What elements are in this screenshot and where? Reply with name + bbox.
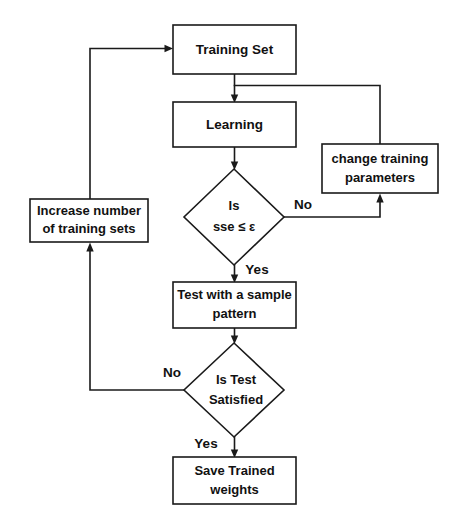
edge-sse-yes: [231, 265, 238, 283]
save-trained-weights-label-line1: Save Trained: [194, 463, 274, 478]
node-test-sample-pattern[interactable]: Test with a sample pattern: [173, 282, 296, 328]
node-test-satisfied-decision[interactable]: Is Test Satisfied: [184, 343, 284, 437]
edge-label-test-no: No: [163, 365, 181, 380]
increase-training-sets-label-line1: Increase number: [37, 203, 141, 218]
edge-label-sse-no: No: [294, 197, 312, 212]
increase-training-sets-label-line2: of training sets: [42, 221, 135, 236]
node-sse-decision[interactable]: Is sse ≤ ε: [184, 169, 284, 265]
test-sample-pattern-label-line2: pattern: [212, 306, 256, 321]
sse-decision-label-line1: Is: [229, 198, 240, 213]
change-training-parameters-label-line1: change training: [332, 151, 429, 166]
flowchart-canvas: Training Set Learning change training pa…: [0, 0, 464, 516]
edge-label-test-yes: Yes: [194, 436, 217, 451]
flowchart-svg: Training Set Learning change training pa…: [0, 0, 464, 516]
test-sample-pattern-label-line1: Test with a sample: [177, 287, 292, 302]
edge-training-to-learning: [231, 74, 238, 103]
sse-decision-label-line2: sse ≤ ε: [213, 219, 255, 234]
arrowhead-training-left: [165, 45, 174, 52]
learning-label: Learning: [206, 117, 263, 132]
test-satisfied-diamond[interactable]: [184, 343, 284, 437]
save-trained-weights-label-line2: weights: [209, 482, 258, 497]
arrowhead-increase-bottom: [86, 243, 93, 252]
edge-increase-to-training: [90, 45, 173, 199]
test-satisfied-label-line2: Satisfied: [209, 392, 263, 407]
node-training-set[interactable]: Training Set: [173, 25, 296, 74]
edge-satisfied-yes: [231, 437, 238, 458]
edge-label-sse-yes: Yes: [245, 262, 268, 277]
node-save-trained-weights[interactable]: Save Trained weights: [173, 457, 296, 504]
test-satisfied-label-line1: Is Test: [216, 372, 257, 387]
sse-decision-diamond[interactable]: [184, 169, 284, 265]
training-set-label: Training Set: [196, 42, 274, 57]
edge-test-to-satisfied: [231, 328, 238, 344]
arrowhead-change-params-bottom: [376, 194, 383, 203]
node-change-training-parameters[interactable]: change training parameters: [322, 144, 438, 193]
change-training-parameters-label-line2: parameters: [345, 170, 415, 185]
edge-learning-to-sse: [231, 147, 238, 170]
node-learning[interactable]: Learning: [173, 102, 296, 147]
node-increase-training-sets[interactable]: Increase number of training sets: [30, 199, 148, 242]
